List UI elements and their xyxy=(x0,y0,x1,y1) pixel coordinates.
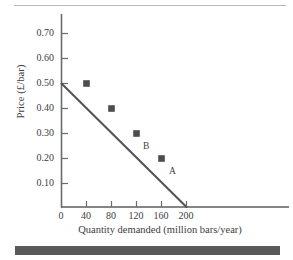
x-tick-label-200: 200 xyxy=(171,210,201,221)
annotation-label-b: B xyxy=(143,141,149,151)
x-axis-title: Quantity demanded (million bars/year) xyxy=(45,224,275,235)
y-tick-label-070: 0.70 xyxy=(16,27,54,38)
demand-curve-figure: 0.70 0.60 0.50 0.40 0.30 0.20 0.10 0 40 … xyxy=(0,0,293,260)
y-tick-label-010: 0.10 xyxy=(16,177,54,188)
data-point-marker xyxy=(83,80,90,87)
annotation-label-a: A xyxy=(169,166,176,176)
y-axis-ticks xyxy=(62,34,69,184)
demand-data-points xyxy=(83,80,165,162)
y-tick-label-020: 0.20 xyxy=(16,152,54,163)
y-axis-title: Price (£/bar) xyxy=(15,42,26,142)
x-axis-ticks xyxy=(87,201,187,207)
demand-curve-line xyxy=(62,84,187,208)
data-point-marker xyxy=(133,130,140,137)
data-point-marker xyxy=(108,105,115,112)
data-point-marker xyxy=(158,155,165,162)
bottom-caption-bar xyxy=(15,246,280,255)
